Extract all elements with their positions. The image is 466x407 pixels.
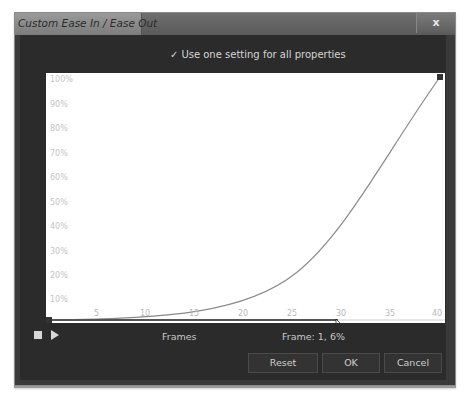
- close-icon: x: [432, 16, 439, 29]
- y-label-50: 50%: [50, 198, 68, 207]
- x-label-35: 35: [385, 309, 395, 318]
- y-label-10: 10%: [50, 295, 68, 304]
- y-label-30: 30%: [50, 247, 68, 256]
- x-label-20: 20: [238, 309, 248, 318]
- ease-curve[interactable]: [49, 77, 440, 320]
- ease-curve-svg: [46, 73, 445, 323]
- reset-button[interactable]: Reset: [248, 353, 318, 373]
- custom-ease-dialog: Custom Ease In / Ease Out x ✓Use one set…: [14, 12, 456, 386]
- frame-info-readout: Frame: 1, 6%: [282, 331, 345, 342]
- dialog-body: ✓Use one setting for all properties 100%…: [20, 35, 446, 380]
- end-control-point[interactable]: [437, 74, 443, 80]
- x-label-30: 30: [336, 309, 346, 318]
- use-one-setting-checkbox[interactable]: ✓Use one setting for all properties: [170, 49, 346, 60]
- ok-button[interactable]: OK: [322, 353, 380, 373]
- x-label-5: 5: [94, 309, 99, 318]
- y-label-20: 20%: [50, 271, 68, 280]
- y-label-100: 100%: [50, 75, 73, 84]
- start-control-point[interactable]: [46, 317, 52, 323]
- checkmark-icon: ✓: [170, 49, 178, 60]
- x-label-40: 40: [432, 309, 442, 318]
- title-tab: Custom Ease In / Ease Out: [15, 13, 142, 35]
- x-label-25: 25: [287, 309, 297, 318]
- y-label-80: 80%: [50, 124, 68, 133]
- dialog-title: Custom Ease In / Ease Out: [18, 17, 157, 29]
- ease-graph[interactable]: 100% 90% 80% 70% 60% 50% 40% 30% 20% 10%…: [46, 73, 445, 323]
- stop-button[interactable]: [34, 331, 42, 339]
- cancel-button[interactable]: Cancel: [384, 353, 442, 373]
- use-one-setting-label: Use one setting for all properties: [181, 49, 345, 60]
- y-label-70: 70%: [50, 149, 68, 158]
- close-button[interactable]: x: [416, 13, 455, 33]
- y-label-40: 40%: [50, 222, 68, 231]
- play-button[interactable]: [51, 330, 59, 340]
- x-label-10: 10: [140, 309, 150, 318]
- y-label-90: 90%: [50, 100, 68, 109]
- y-label-60: 60%: [50, 173, 68, 182]
- title-bar[interactable]: Custom Ease In / Ease Out x: [15, 13, 455, 35]
- frames-axis-label: Frames: [162, 331, 197, 342]
- x-label-15: 15: [189, 309, 199, 318]
